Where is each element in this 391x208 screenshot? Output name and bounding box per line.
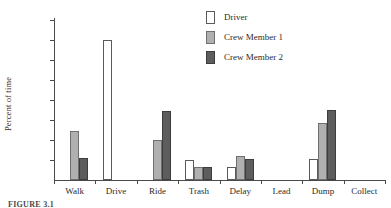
x-axis-label: Ride [149,185,166,197]
bar [327,110,336,180]
y-tick-mark [50,100,54,101]
y-tick-mark [50,120,54,121]
legend-swatch-icon [206,51,215,64]
x-axis-label: Dump [312,185,335,197]
y-tick-mark [50,80,54,81]
y-axis-title: Percent of time [3,77,13,131]
y-tick-mark [50,140,54,141]
x-axis-label: Trash [189,185,209,197]
bar [79,158,88,180]
y-axis-line [54,18,55,181]
bar [309,159,318,180]
bar [162,111,171,180]
legend-item: Driver [206,8,346,26]
x-axis-label: Collect [351,185,377,197]
bar [227,167,236,180]
x-tick-mark [302,180,303,184]
figure-caption: FIGURE 3.1 [8,200,54,208]
bar [70,131,79,180]
legend-label: Driver [224,11,248,23]
y-tick-mark [50,160,54,161]
x-tick-mark [261,180,262,184]
x-tick-mark [178,180,179,184]
bar [236,156,245,180]
x-axis-label: Delay [229,185,251,197]
x-tick-mark [344,180,345,184]
legend-label: Crew Member 1 [224,31,283,43]
x-tick-mark [220,180,221,184]
bar [153,140,162,180]
bar [245,159,254,180]
x-tick-mark [385,180,386,184]
legend-label: Crew Member 2 [224,51,283,63]
legend-swatch-icon [206,31,215,44]
bar [185,160,194,180]
x-tick-mark [54,180,55,184]
legend-swatch-icon [206,11,215,24]
bar [203,167,212,180]
y-tick-mark [50,40,54,41]
x-axis-label: Walk [65,185,84,197]
x-tick-mark [137,180,138,184]
bar [103,40,112,180]
legend-item: Crew Member 1 [206,28,346,46]
legend-item: Crew Member 2 [206,48,346,66]
x-tick-mark [95,180,96,184]
x-axis-label: Drive [106,185,127,197]
y-tick-mark [50,20,54,21]
legend: DriverCrew Member 1Crew Member 2 [206,8,346,68]
y-tick-mark [50,60,54,61]
bar [318,123,327,180]
bar-chart: Percent of time 1020304050607080 WalkDri… [0,0,391,208]
bar [194,167,203,180]
x-axis-label: Lead [273,185,291,197]
